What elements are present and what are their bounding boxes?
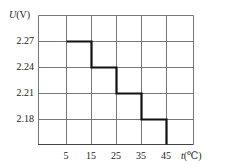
y-tick-label: 2.21 <box>4 88 34 98</box>
chart-plot-area <box>0 0 226 166</box>
x-tick-label: 5 <box>56 151 76 161</box>
x-tick-label: 15 <box>81 151 101 161</box>
y-tick-label: 2.24 <box>4 62 34 72</box>
y-axis-label: U(V) <box>9 10 30 20</box>
x-tick-label: 35 <box>131 151 151 161</box>
x-axis-label: t(℃) <box>181 151 202 161</box>
y-tick-label: 2.27 <box>4 36 34 46</box>
x-tick-label: 45 <box>156 151 176 161</box>
x-tick-label: 25 <box>106 151 126 161</box>
y-tick-label: 2.18 <box>4 114 34 124</box>
